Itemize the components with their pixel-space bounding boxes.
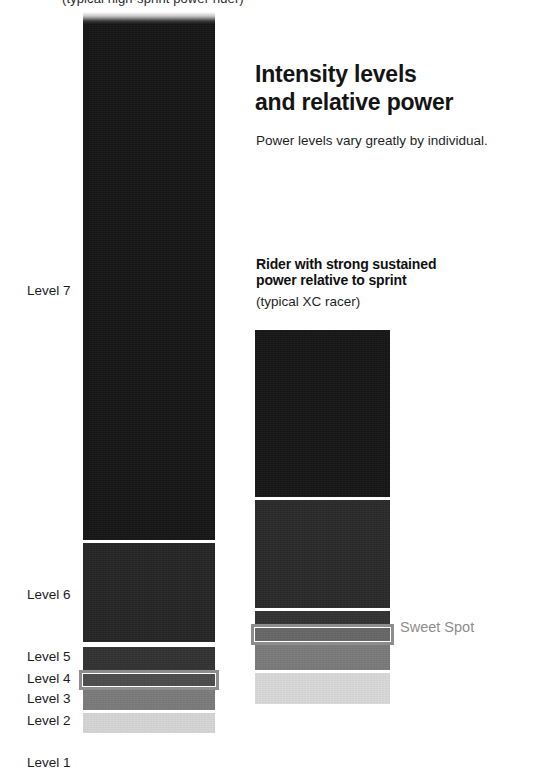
bar-top-fade bbox=[83, 12, 215, 24]
grain-texture bbox=[255, 500, 390, 608]
page-title: Intensity levels and relative power bbox=[255, 60, 530, 116]
right-chart-caption: (typical XC racer) bbox=[256, 294, 360, 309]
page-title-line-1: Intensity levels bbox=[255, 61, 417, 87]
axis-label-level-2: Level 2 bbox=[27, 714, 71, 728]
page-title-line-2: and relative power bbox=[255, 88, 530, 116]
grain-texture bbox=[83, 12, 215, 540]
axis-label-level-3: Level 3 bbox=[27, 692, 71, 706]
bar-segment-level-5 bbox=[83, 647, 215, 670]
grain-texture bbox=[255, 611, 390, 624]
bar-series-sustained-power bbox=[255, 0, 390, 780]
grain-texture bbox=[83, 713, 215, 733]
right-chart-heading-line-1: Rider with strong sustained bbox=[256, 256, 436, 272]
grain-texture bbox=[255, 673, 390, 704]
bar-segment-level-5 bbox=[255, 611, 390, 624]
grain-texture bbox=[255, 330, 390, 497]
bar-segment-level-3 bbox=[255, 645, 390, 670]
grain-texture bbox=[83, 690, 215, 710]
bar-segment-level-7 bbox=[255, 330, 390, 497]
axis-label-level-5: Level 5 bbox=[27, 650, 71, 664]
sweet-spot-label: Sweet Spot bbox=[400, 619, 474, 635]
bar-segment-level-2 bbox=[255, 673, 390, 704]
grain-texture bbox=[255, 645, 390, 670]
axis-label-level-1: Level 1 bbox=[27, 756, 71, 770]
right-chart-heading-line-2: power relative to sprint bbox=[256, 272, 488, 288]
bar-segment-level-2 bbox=[83, 713, 215, 733]
sweet-spot-highlight-left bbox=[79, 670, 219, 690]
axis-label-level-7: Level 7 bbox=[27, 284, 71, 298]
sweet-spot-highlight-right bbox=[251, 624, 394, 645]
axis-label-level-4: Level 4 bbox=[27, 672, 71, 686]
bar-segment-level-6 bbox=[83, 543, 215, 642]
bar-segment-level-7 bbox=[83, 12, 215, 540]
right-chart-heading: Rider with strong sustained power relati… bbox=[256, 256, 488, 289]
grain-texture bbox=[83, 647, 215, 670]
bar-segment-level-3 bbox=[83, 690, 215, 710]
bar-series-high-sprint bbox=[83, 0, 215, 780]
bar-segment-level-6 bbox=[255, 500, 390, 608]
grain-texture bbox=[83, 543, 215, 642]
axis-label-level-6: Level 6 bbox=[27, 588, 71, 602]
page-subtitle: Power levels vary greatly by individual. bbox=[256, 132, 534, 150]
